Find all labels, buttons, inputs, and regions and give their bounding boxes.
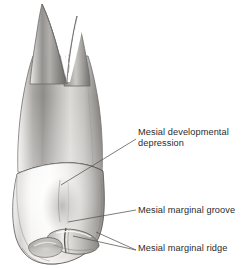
tooth-root: [18, 4, 103, 172]
label-mesial-developmental-depression: Mesial developmentaldepression: [138, 127, 229, 149]
label-mesial-developmental-depression-line1: Mesial developmental: [138, 127, 229, 137]
tooth-crown: [13, 163, 105, 265]
label-mesial-marginal-groove: Mesial marginal groove: [138, 205, 235, 216]
label-mesial-developmental-depression-line2: depression: [138, 138, 184, 148]
leader-line-mesial-marginal-ridge-b: [96, 232, 136, 250]
mesial-developmental-depression-shading: [42, 176, 82, 236]
label-mesial-marginal-ridge: Mesial marginal ridge: [138, 243, 227, 254]
crown-cusp-shading: [24, 241, 68, 263]
